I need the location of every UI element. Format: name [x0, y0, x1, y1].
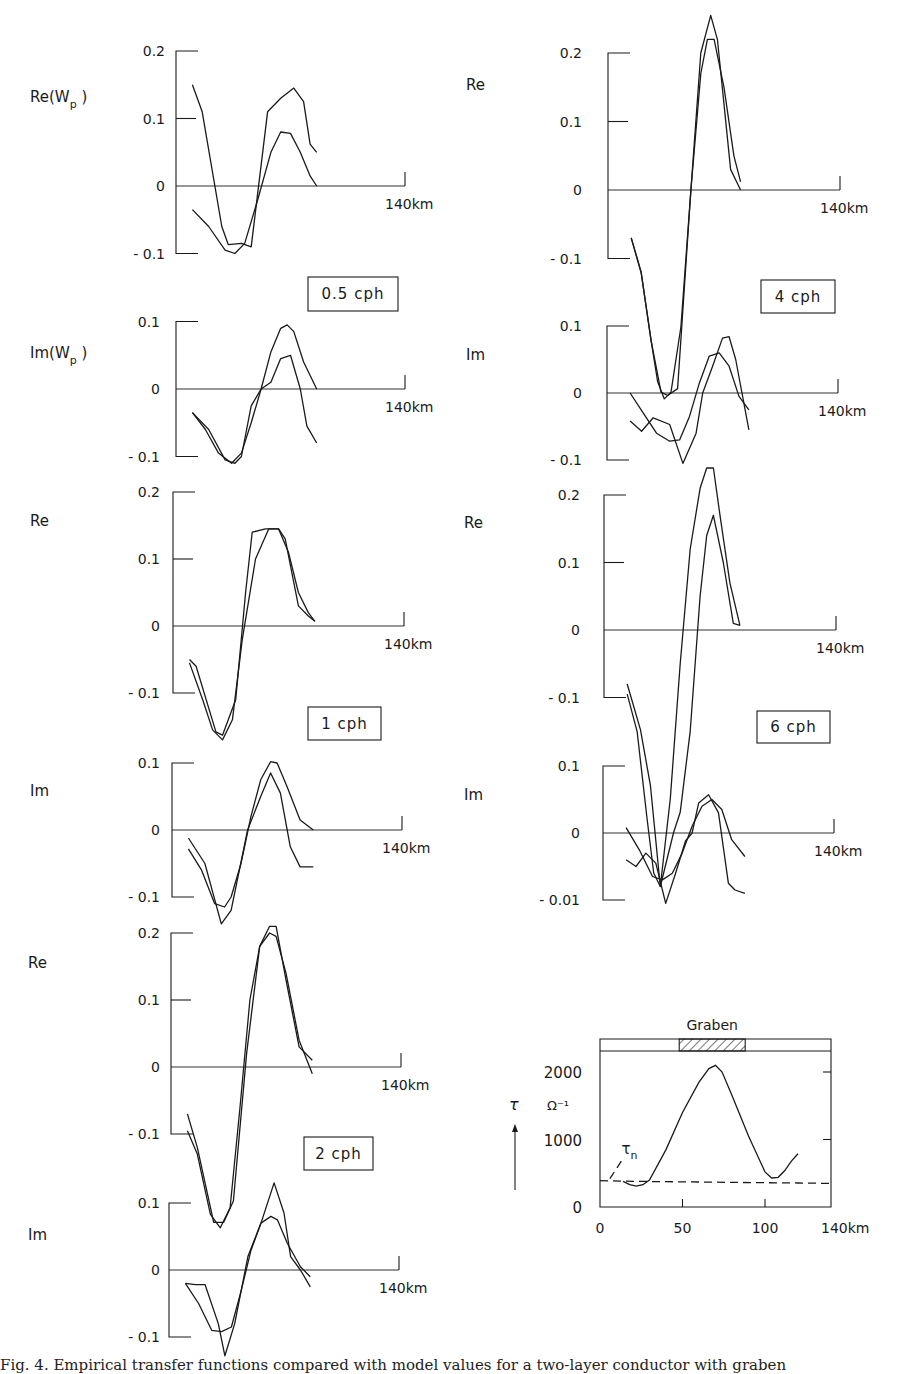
- y-axis-label: Im: [464, 786, 483, 804]
- y-axis-label: Im: [466, 346, 485, 364]
- series-model: [185, 1216, 310, 1331]
- y-tick-label: 0.1: [143, 111, 165, 127]
- series-model: [192, 132, 316, 254]
- y-axis-label: Re: [30, 512, 49, 530]
- series-observed: [630, 337, 749, 464]
- y-tick-label: - 0.1: [128, 449, 160, 465]
- y-axis-bracket: [604, 495, 626, 698]
- x-end-label: 140km: [385, 196, 433, 212]
- y-tick-label: - 0.01: [539, 892, 580, 908]
- panel-re-4cph: 140km0.20.10- 0.1Re: [466, 15, 868, 399]
- series-observed: [192, 85, 316, 247]
- y-tick-label: 0.1: [138, 1195, 160, 1211]
- series-observed: [627, 515, 740, 886]
- panel-im-0.5cph: 140km0.10- 0.1Im(Wp ): [30, 314, 433, 465]
- series-observed: [185, 1183, 310, 1356]
- y-tick-label: - 0.1: [548, 690, 580, 706]
- figure-caption: Fig. 4. Empirical transfer functions com…: [0, 1356, 900, 1374]
- y-tick-label: 0: [573, 182, 582, 198]
- y-axis-bracket: [171, 933, 193, 1134]
- x-end-label: 140km: [818, 403, 866, 419]
- x-end-label: 140km: [382, 840, 430, 856]
- x-tick-label: 140km: [821, 1220, 869, 1236]
- frequency-label: 6 cph: [770, 718, 817, 736]
- y-tick-label: - 0.1: [550, 452, 582, 468]
- y-tick-label: 0.2: [138, 925, 160, 941]
- y-tick-label: 0.2: [558, 487, 580, 503]
- y-tick-label: 0: [573, 385, 582, 401]
- y-axis-label: Im(Wp ): [30, 344, 87, 367]
- series-observed: [631, 15, 740, 395]
- x-tick-label: 50: [674, 1220, 692, 1236]
- tau-profile-panel: Graben010002000050100140kmΩ⁻¹ττn: [509, 1017, 869, 1236]
- y-unit-label: Ω⁻¹: [547, 1098, 569, 1113]
- y-axis-label: Re: [28, 954, 47, 972]
- x-tick-label: 100: [752, 1220, 779, 1236]
- series-observed: [190, 529, 315, 735]
- series-observed: [188, 773, 313, 924]
- y-tick-label: 1000: [544, 1132, 582, 1150]
- frequency-badge: 6 cph: [757, 711, 830, 743]
- x-end-label: 140km: [820, 200, 868, 216]
- panel-im-6cph: 140km0.10- 0.01Im: [464, 758, 862, 908]
- panel-im-2cph: 140km0.10- 0.1Im: [28, 1183, 427, 1356]
- frequency-badge: 1 cph: [308, 707, 381, 740]
- series-model: [192, 325, 316, 463]
- tau-axis-label: τ: [509, 1095, 519, 1114]
- y-axis-label: Im: [30, 782, 49, 800]
- frequency-badge: 0.5 cph: [308, 277, 398, 311]
- y-tick-label: 0.2: [138, 484, 160, 500]
- series-observed: [187, 926, 312, 1222]
- y-tick-label: - 0.1: [133, 246, 165, 262]
- y-tick-label: 0.1: [138, 551, 160, 567]
- y-tick-label: 0.1: [558, 555, 580, 571]
- x-end-label: 140km: [381, 1077, 429, 1093]
- frequency-label: 2 cph: [315, 1145, 362, 1163]
- y-tick-label: 0: [571, 622, 580, 638]
- y-tick-label: 0: [151, 618, 160, 634]
- frequency-label: 4 cph: [775, 288, 822, 306]
- panel-re-1cph: 140km0.20.10- 0.1Re: [30, 484, 432, 740]
- series-observed: [626, 795, 745, 904]
- y-axis-label: Re: [464, 514, 483, 532]
- panel-re-0.5cph: 140km0.20.10- 0.1Re(Wp ): [30, 43, 433, 262]
- y-tick-label: 0.1: [560, 114, 582, 130]
- y-tick-label: 0: [151, 822, 160, 838]
- y-axis-label: Re: [466, 76, 485, 94]
- y-tick-label: 0.1: [558, 758, 580, 774]
- series-model: [626, 800, 745, 880]
- y-tick-label: 0.1: [138, 314, 160, 330]
- panel-re-6cph: 140km0.20.10- 0.1Re: [464, 468, 864, 887]
- y-axis-bracket: [173, 492, 195, 693]
- y-tick-label: 0: [156, 178, 165, 194]
- y-tick-label: 0: [572, 1199, 582, 1217]
- y-tick-label: 0: [151, 1059, 160, 1075]
- series-model: [630, 353, 749, 441]
- panel-re-2cph: 140km0.20.10- 0.1Re: [28, 925, 429, 1228]
- x-end-label: 140km: [379, 1280, 427, 1296]
- y-tick-label: - 0.1: [128, 1126, 160, 1142]
- y-tick-label: - 0.1: [128, 889, 160, 905]
- panels-group: 140km0.20.10- 0.1Re(Wp )140km0.10- 0.1Im…: [28, 15, 868, 1356]
- tau-n-annotation: τn: [621, 1140, 637, 1162]
- panel-im-4cph: 140km0.10- 0.1Im: [466, 318, 866, 468]
- panel-im-1cph: 140km0.10- 0.1Im: [30, 755, 430, 924]
- series-model: [631, 39, 740, 399]
- y-tick-label: 0.2: [560, 45, 582, 61]
- y-axis-bracket: [608, 53, 630, 259]
- series-model: [187, 933, 312, 1228]
- y-tick-label: 2000: [544, 1064, 582, 1082]
- x-end-label: 140km: [816, 640, 864, 656]
- y-axis-bracket: [176, 51, 198, 254]
- arrow-up-icon: [512, 1124, 518, 1132]
- series-τn-leader: [610, 1158, 623, 1178]
- x-tick-label: 0: [596, 1220, 605, 1236]
- graben-hatched-block: [679, 1039, 745, 1051]
- frequency-label: 0.5 cph: [322, 285, 385, 303]
- y-tick-label: 0.1: [138, 755, 160, 771]
- x-end-label: 140km: [385, 399, 433, 415]
- y-tick-label: 0.2: [143, 43, 165, 59]
- x-end-label: 140km: [384, 636, 432, 652]
- frequency-label: 1 cph: [321, 715, 368, 733]
